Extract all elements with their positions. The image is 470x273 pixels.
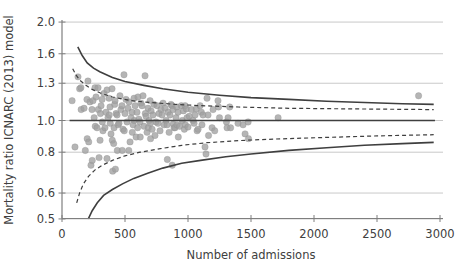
y-tick-label: 0.6 (37, 186, 55, 200)
data-point (152, 132, 158, 138)
data-point (109, 86, 115, 92)
data-point (121, 128, 127, 134)
data-point (159, 112, 165, 118)
data-point (89, 106, 95, 112)
y-tick-label: 2.0 (37, 15, 55, 29)
x-tick-label: 1500 (236, 227, 265, 241)
outer-lower-limit-line (88, 142, 433, 219)
data-point (81, 105, 87, 111)
data-point (96, 154, 102, 160)
data-point (205, 132, 211, 138)
data-point (94, 125, 100, 131)
data-point (110, 140, 116, 146)
x-tick-label: 3000 (425, 227, 454, 241)
data-point (175, 134, 181, 140)
data-point (134, 125, 140, 131)
y-tick-label: 0.5 (37, 212, 55, 226)
funnel-plot: 0500100015002000250030002.01.61.31.00.80… (0, 0, 470, 273)
data-point (245, 119, 251, 125)
funnel-plot-canvas: 0500100015002000250030002.01.61.31.00.80… (0, 0, 470, 273)
data-point (415, 93, 421, 99)
data-point (119, 102, 125, 108)
data-point (72, 144, 78, 150)
data-point (85, 78, 91, 84)
data-point (93, 94, 99, 100)
data-point (164, 122, 170, 128)
data-point (149, 126, 155, 132)
data-point (82, 147, 88, 153)
data-point (95, 84, 101, 90)
data-point (98, 102, 104, 108)
data-point (121, 72, 127, 78)
data-point (102, 125, 108, 131)
data-point (215, 97, 221, 103)
data-point (104, 155, 110, 161)
data-point (185, 124, 191, 130)
data-point (142, 73, 148, 79)
data-point (245, 135, 251, 141)
data-point (227, 125, 233, 131)
x-tick-label: 500 (114, 227, 136, 241)
data-point (127, 139, 133, 145)
data-point (112, 97, 118, 103)
data-point (215, 104, 221, 110)
data-point (106, 95, 112, 101)
y-tick-label: 1.0 (37, 114, 55, 128)
data-point (157, 128, 163, 134)
data-point (132, 102, 138, 108)
data-point (106, 112, 112, 118)
x-tick-label: 1000 (173, 227, 202, 241)
data-point (205, 112, 211, 118)
y-axis-title: Mortality ratio ICNARC (2013) model (2, 15, 16, 224)
data-point (139, 102, 145, 108)
y-tick-label: 1.3 (37, 76, 55, 90)
data-point (203, 151, 209, 157)
y-tick-label: 1.6 (37, 47, 55, 61)
x-axis-title: Number of admissions (187, 248, 316, 262)
data-point (140, 93, 146, 99)
data-point (126, 147, 132, 153)
data-point (212, 128, 218, 134)
data-point (164, 156, 170, 162)
data-point (199, 122, 205, 128)
data-point (99, 119, 105, 125)
data-point (99, 96, 105, 102)
scatter-points (69, 72, 422, 175)
data-point (150, 112, 156, 118)
data-point (108, 131, 114, 137)
data-point (192, 112, 198, 118)
data-point (89, 157, 95, 163)
data-point (137, 134, 143, 140)
outer-upper-limit-line (78, 47, 434, 105)
data-point (204, 95, 210, 101)
data-point (134, 109, 140, 115)
x-tick-label: 2000 (299, 227, 328, 241)
data-point (86, 139, 92, 145)
x-tick-label: 2500 (362, 227, 391, 241)
data-point (69, 97, 75, 103)
data-point (78, 84, 84, 90)
data-point (97, 137, 103, 143)
x-tick-label: 0 (58, 227, 65, 241)
data-point (202, 144, 208, 150)
y-tick-label: 0.8 (37, 145, 55, 159)
data-point (119, 147, 125, 153)
data-point (112, 166, 118, 172)
